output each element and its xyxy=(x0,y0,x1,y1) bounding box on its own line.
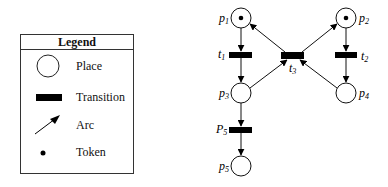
svg-text:p2: p2 xyxy=(358,11,369,26)
svg-text:t2: t2 xyxy=(361,49,368,64)
arc-t3-p1 xyxy=(250,24,285,52)
svg-text:p1: p1 xyxy=(218,11,229,26)
svg-text:p4: p4 xyxy=(358,86,369,101)
place-p4: p4 xyxy=(336,83,369,103)
svg-text:p3: p3 xyxy=(218,86,229,101)
arc-t3-p2 xyxy=(302,24,337,52)
transition-t2: t2 xyxy=(335,49,368,64)
svg-text:t1: t1 xyxy=(218,47,225,62)
arcs xyxy=(241,24,346,155)
arc-p4-t3 xyxy=(300,60,337,88)
transition-t1: t1 xyxy=(218,47,252,62)
svg-text:P5: P5 xyxy=(215,122,227,137)
token-icon xyxy=(239,16,244,21)
place-p5: p5 xyxy=(218,156,251,176)
place-p2: p2 xyxy=(336,8,369,28)
place-p1: p1 xyxy=(218,8,251,28)
arc-p3-t3 xyxy=(250,60,287,88)
transition-t4: P5 xyxy=(215,122,252,137)
transition-t3: t3 xyxy=(281,52,304,76)
svg-text:t3: t3 xyxy=(289,61,296,76)
petri-net-diagram: p1 p2 p3 p4 p5 t1 t2 t3 P5 xyxy=(0,0,388,187)
token-icon xyxy=(344,16,349,21)
svg-text:p5: p5 xyxy=(218,159,229,174)
place-p3: p3 xyxy=(218,83,251,103)
